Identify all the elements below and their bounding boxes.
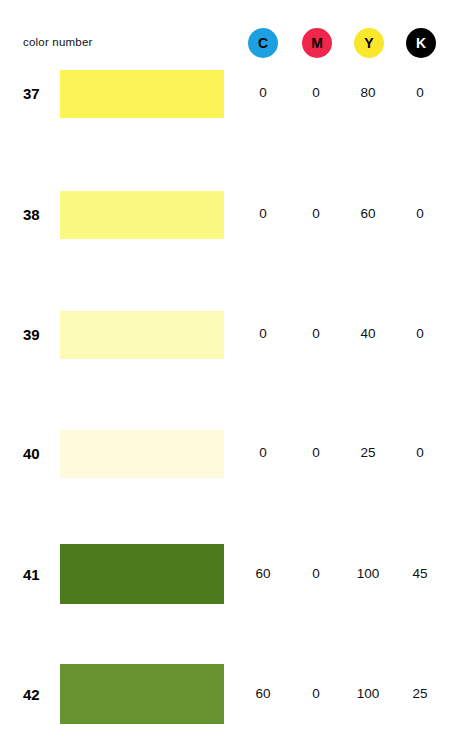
magenta-value: 0 xyxy=(294,206,338,221)
cmyk-values: 0 0 40 0 xyxy=(236,326,450,344)
cyan-channel-icon: C xyxy=(248,28,278,58)
magenta-channel-letter: M xyxy=(311,36,323,50)
color-swatch xyxy=(60,311,224,359)
chart-header: color number C M Y K xyxy=(0,0,452,66)
ink-channel-legend: C M Y K xyxy=(236,28,450,62)
cyan-value: 60 xyxy=(241,566,285,581)
black-value: 0 xyxy=(398,85,442,100)
cmyk-values: 60 0 100 25 xyxy=(236,686,450,704)
magenta-value: 0 xyxy=(294,686,338,701)
yellow-value: 100 xyxy=(346,686,390,701)
cyan-channel-letter: C xyxy=(258,36,268,50)
row-number: 41 xyxy=(23,566,57,583)
magenta-value: 0 xyxy=(294,445,338,460)
color-number-label: color number xyxy=(23,36,93,48)
yellow-channel-letter: Y xyxy=(364,36,373,50)
color-swatch xyxy=(60,191,224,239)
color-swatch xyxy=(60,544,224,604)
cmyk-values: 0 0 80 0 xyxy=(236,85,450,103)
color-swatch xyxy=(60,430,224,478)
row-number: 38 xyxy=(23,206,57,223)
yellow-value: 80 xyxy=(346,85,390,100)
magenta-value: 0 xyxy=(294,326,338,341)
cyan-value: 0 xyxy=(241,206,285,221)
black-value: 25 xyxy=(398,686,442,701)
black-value: 45 xyxy=(398,566,442,581)
row-number: 40 xyxy=(23,445,57,462)
black-value: 0 xyxy=(398,445,442,460)
cmyk-values: 60 0 100 45 xyxy=(236,566,450,584)
yellow-value: 25 xyxy=(346,445,390,460)
cmyk-values: 0 0 25 0 xyxy=(236,445,450,463)
row-number: 39 xyxy=(23,326,57,343)
yellow-value: 60 xyxy=(346,206,390,221)
yellow-value: 100 xyxy=(346,566,390,581)
cyan-value: 0 xyxy=(241,445,285,460)
black-channel-letter: K xyxy=(416,36,426,50)
cmyk-color-chart: color number C M Y K 37 0 0 80 xyxy=(0,0,452,753)
cyan-value: 0 xyxy=(241,85,285,100)
black-channel-icon: K xyxy=(406,28,436,58)
magenta-value: 0 xyxy=(294,566,338,581)
cmyk-values: 0 0 60 0 xyxy=(236,206,450,224)
color-swatch xyxy=(60,70,224,118)
cyan-value: 60 xyxy=(241,686,285,701)
cyan-value: 0 xyxy=(241,326,285,341)
color-swatch xyxy=(60,664,224,724)
black-value: 0 xyxy=(398,206,442,221)
magenta-channel-icon: M xyxy=(302,28,332,58)
magenta-value: 0 xyxy=(294,85,338,100)
yellow-channel-icon: Y xyxy=(354,28,384,58)
row-number: 37 xyxy=(23,85,57,102)
black-value: 0 xyxy=(398,326,442,341)
yellow-value: 40 xyxy=(346,326,390,341)
row-number: 42 xyxy=(23,686,57,703)
